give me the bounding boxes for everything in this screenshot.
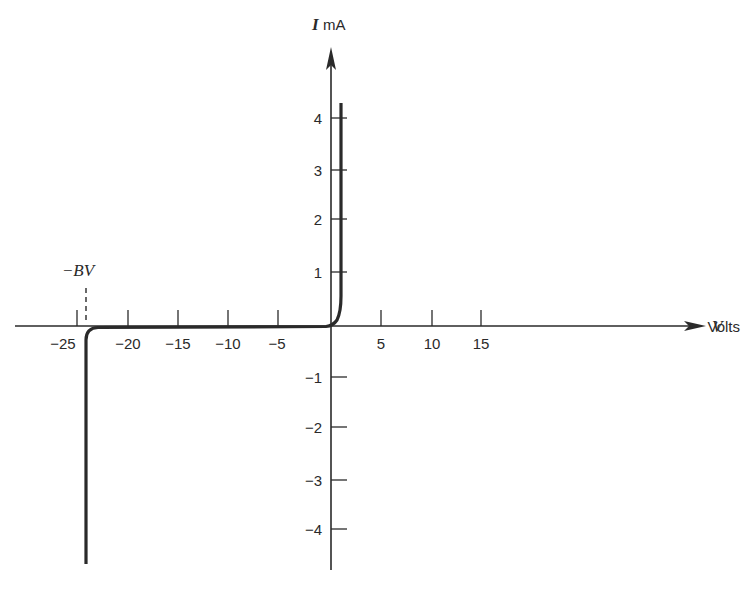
y-axis-unit: mA <box>323 16 346 33</box>
x-tick-label: −10 <box>215 335 240 352</box>
y-tick-label: −2 <box>305 419 322 436</box>
y-tick-label: 4 <box>314 110 322 127</box>
y-tick-label: 3 <box>314 162 322 179</box>
breakdown-voltage-marker: −BV <box>62 261 97 324</box>
bv-label: −BV <box>62 261 97 280</box>
x-tick-label: 5 <box>377 335 385 352</box>
y-tick-label: −4 <box>305 521 322 538</box>
x-tick-label: −20 <box>115 335 140 352</box>
x-axis-title: V Volts <box>707 317 740 336</box>
x-tick-label: −5 <box>268 335 285 352</box>
x-tick-label: −15 <box>165 335 190 352</box>
y-tick-label: −1 <box>305 369 322 386</box>
x-tick-label: 15 <box>473 335 490 352</box>
y-axis-symbol: I <box>311 15 320 34</box>
x-tick-label: 10 <box>424 335 441 352</box>
y-axis-title: I mA <box>311 15 346 34</box>
y-tick-label: −3 <box>305 472 322 489</box>
iv-curve <box>86 103 341 564</box>
x-tick-label: −25 <box>50 335 75 352</box>
diode-iv-chart: −25 −20 −15 −10 −5 5 10 15 4 3 2 1 −1 −2… <box>0 0 744 592</box>
x-ticks <box>77 310 481 326</box>
y-tick-labels: 4 3 2 1 −1 −2 −3 −4 <box>305 110 322 538</box>
y-axis <box>326 47 336 570</box>
x-axis-unit: Volts <box>707 318 740 335</box>
x-tick-labels: −25 −20 −15 −10 −5 5 10 15 <box>50 335 489 352</box>
y-tick-label: 2 <box>314 211 322 228</box>
y-tick-label: 1 <box>314 264 322 281</box>
